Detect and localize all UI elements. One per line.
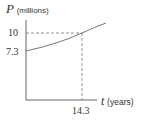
y-axis-variable: P xyxy=(6,1,14,16)
y-axis-unit: (millions) xyxy=(17,6,49,15)
y-tick-10: 10 xyxy=(8,28,18,38)
chart-container: P (millions) 10 7.3 14.3 t (years) xyxy=(0,0,149,120)
x-axis-variable: t xyxy=(101,94,104,108)
y-axis-label: P (millions) xyxy=(6,2,49,15)
x-axis-label: t (years) xyxy=(101,95,134,107)
x-axis-unit: (years) xyxy=(107,97,133,107)
y-tick-7-3: 7.3 xyxy=(6,47,19,57)
population-curve xyxy=(26,23,106,51)
x-tick-14-3: 14.3 xyxy=(72,106,90,116)
